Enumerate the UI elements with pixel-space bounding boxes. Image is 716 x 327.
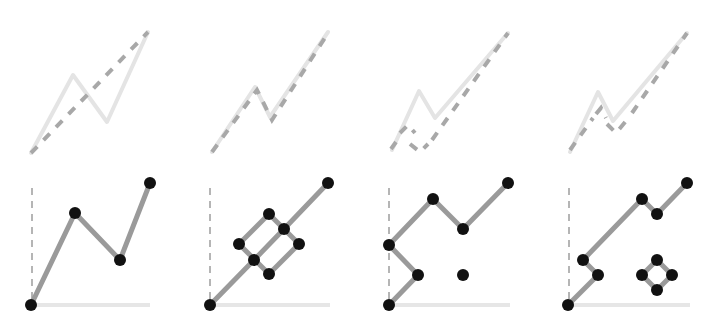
faint-path-layer [31,32,687,153]
panel-4-node [651,208,663,220]
panel-3-edge [389,199,433,245]
dashed-path-layer [31,32,687,153]
panel-3-edge [463,183,508,229]
edge-layer [31,183,687,305]
panel-1-dashed-path [31,32,148,153]
panel-2-edge [210,260,254,305]
panel-3-edge [433,199,463,229]
panel-1-node [69,207,81,219]
panel-2-dashed-path [212,33,328,152]
panel-4-edge [583,199,642,260]
panel-4-node [651,284,663,296]
panel-2-node [278,223,290,235]
panel-2-node [233,238,245,250]
panel-4-node [636,269,648,281]
panel-3-dashed-path [432,33,508,140]
panel-4-node [666,269,678,281]
axis-layer [32,188,690,305]
panel-4-edge [568,275,598,305]
panel-1-edge [75,213,120,260]
panel-3-dashed-path [391,142,396,149]
panel-3-edge [389,275,418,305]
panel-4-faint-path [570,33,687,152]
panel-4-node [636,193,648,205]
panel-3-node [502,177,514,189]
diagram-stage [0,0,716,327]
panel-4-node [562,299,574,311]
panel-1-edge [31,213,75,305]
panel-2-edge [269,244,299,274]
panel-2-node [204,299,216,311]
panel-4-node [681,177,693,189]
panel-2-edge [239,214,269,244]
panel-3-faint-path [392,33,508,150]
panel-2-node [263,268,275,280]
panel-1-node [25,299,37,311]
panel-4-node [577,254,589,266]
panel-3-node [383,299,395,311]
panel-1-node [144,177,156,189]
panel-3-node [427,193,439,205]
panel-1-node [114,254,126,266]
panel-2-node [248,254,260,266]
panel-2-edge [254,229,284,260]
panel-3-node [457,269,469,281]
panel-4-dashed-path [607,121,626,133]
panel-2-node [322,177,334,189]
panel-2-node [293,238,305,250]
graph-diagram [0,0,716,327]
panel-2-faint-path [212,32,328,152]
panel-2-edge [284,183,328,229]
panel-2-node [263,208,275,220]
panel-3-edge [389,245,418,275]
panel-4-edge [657,183,687,214]
panel-3-node [383,239,395,251]
panel-3-dashed-path [410,144,428,152]
panel-4-node [651,254,663,266]
panel-3-node [457,223,469,235]
panel-1-edge [120,183,150,260]
panel-4-node [592,269,604,281]
panel-3-node [412,269,424,281]
panel-4-dashed-path [596,108,606,118]
